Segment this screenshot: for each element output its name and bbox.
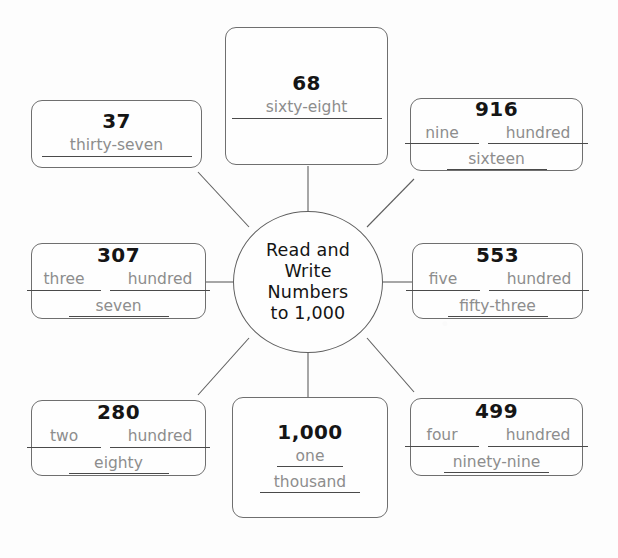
answer-row: sixteen [411, 150, 582, 170]
answer-blank[interactable]: thirty-seven [42, 136, 192, 156]
answer-blank[interactable]: hundred [110, 427, 210, 447]
answer-blank[interactable]: eighty [69, 454, 169, 474]
answer-row: fifty-three [413, 297, 582, 317]
number-box-307[interactable]: 307 three hundred seven [31, 243, 206, 319]
answer-blank[interactable]: ninety-nine [444, 453, 550, 473]
answer-blank[interactable]: sixty-eight [232, 98, 382, 118]
number-box-916[interactable]: 916 nine hundred sixteen [410, 98, 583, 171]
answer-row: eighty [32, 454, 205, 474]
answer-blank[interactable]: hundred [489, 270, 589, 290]
answer-blank[interactable]: one [277, 447, 343, 467]
numeral-499: 499 [475, 401, 518, 421]
center-title-line-1: Read and [266, 240, 350, 260]
numeral-68: 68 [292, 73, 321, 93]
connector-to-916 [367, 179, 414, 227]
answer-row: seven [32, 297, 205, 317]
answer-blank[interactable]: sixteen [447, 150, 547, 170]
number-box-553[interactable]: 553 five hundred fifty-three [412, 243, 583, 319]
answer-row: four hundred [411, 426, 582, 446]
worksheet-canvas: Read and Write Numbers to 1,000 68 sixty… [0, 0, 618, 558]
answer-blank[interactable]: three [27, 270, 101, 290]
answer-blank[interactable]: two [27, 427, 101, 447]
center-title-line-3: Numbers [268, 282, 349, 302]
answer-area-916: nine hundred sixteen [411, 124, 582, 171]
answer-area-68: sixty-eight [226, 98, 387, 118]
number-box-37[interactable]: 37 thirty-seven [31, 100, 202, 168]
answer-blank[interactable]: four [405, 426, 479, 446]
answer-area-553: five hundred fifty-three [413, 270, 582, 317]
numeral-916: 916 [475, 99, 518, 119]
answer-blank[interactable]: seven [69, 297, 169, 317]
answer-row: sixty-eight [226, 98, 387, 118]
answer-row: five hundred [413, 270, 582, 290]
answer-row: three hundred [32, 270, 205, 290]
answer-blank[interactable]: hundred [488, 426, 588, 446]
answer-row: two hundred [32, 427, 205, 447]
number-box-1000[interactable]: 1,000 one thousand [232, 397, 388, 518]
center-topic-title: Read and Write Numbers to 1,000 [260, 240, 356, 325]
answer-area-499: four hundred ninety-nine [411, 426, 582, 473]
answer-blank[interactable]: fifty-three [448, 297, 548, 317]
answer-blank[interactable]: hundred [488, 124, 588, 144]
numeral-307: 307 [97, 245, 140, 265]
answer-blank[interactable]: thousand [260, 473, 360, 493]
connector-to-499 [367, 338, 414, 392]
connector-to-280 [198, 338, 249, 395]
answer-blank[interactable]: five [406, 270, 480, 290]
center-title-line-2: Write [284, 261, 331, 281]
numeral-1000: 1,000 [277, 422, 342, 442]
answer-blank[interactable]: nine [405, 124, 479, 144]
answer-area-37: thirty-seven [32, 136, 201, 156]
number-box-68[interactable]: 68 sixty-eight [225, 27, 388, 165]
connector-to-37 [198, 172, 249, 227]
answer-area-280: two hundred eighty [32, 427, 205, 474]
answer-row: nine hundred [411, 124, 582, 144]
answer-row: ninety-nine [411, 453, 582, 473]
answer-row: thirty-seven [32, 136, 201, 156]
number-box-280[interactable]: 280 two hundred eighty [31, 400, 206, 476]
answer-area-1000: one thousand [233, 447, 387, 494]
center-topic-circle: Read and Write Numbers to 1,000 [233, 211, 383, 353]
answer-row: thousand [233, 473, 387, 493]
answer-row: one [233, 447, 387, 467]
answer-area-307: three hundred seven [32, 270, 205, 317]
center-title-line-4: to 1,000 [271, 303, 346, 323]
answer-blank[interactable]: hundred [110, 270, 210, 290]
numeral-280: 280 [97, 402, 140, 422]
number-box-499[interactable]: 499 four hundred ninety-nine [410, 398, 583, 476]
numeral-553: 553 [476, 245, 519, 265]
numeral-37: 37 [102, 111, 131, 131]
